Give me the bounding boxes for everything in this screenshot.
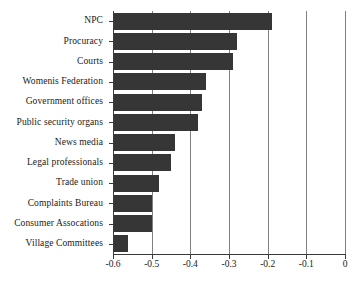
y-axis-label: Procuracy [0, 31, 108, 51]
bar-row [113, 153, 345, 173]
x-tick-label: 0 [343, 260, 348, 270]
x-tick-label: -0.3 [221, 260, 236, 270]
y-axis-label: Complaints Bureau [0, 193, 108, 213]
bar-row [113, 193, 345, 213]
y-axis-label: News media [0, 133, 108, 153]
bar [113, 94, 202, 111]
y-axis-label: Womenis Federation [0, 72, 108, 92]
bar [113, 134, 175, 151]
x-tick-label: -0.5 [144, 260, 159, 270]
bar-series [113, 11, 345, 254]
bar-row [113, 234, 345, 254]
bar [113, 73, 206, 90]
bar [113, 175, 159, 192]
x-tick-label: -0.1 [299, 260, 314, 270]
bar [113, 33, 237, 50]
y-axis-line [113, 11, 114, 254]
bar [113, 195, 152, 212]
bar-row [113, 214, 345, 234]
y-axis-label: Village Committees [0, 234, 108, 254]
y-axis-label: Consumer Assocations [0, 214, 108, 234]
y-axis-label: Legal professionals [0, 153, 108, 173]
x-tick-label: -0.6 [105, 260, 120, 270]
x-axis-ticks: -0.6-0.5-0.4-0.3-0.2-0.10 [113, 254, 345, 260]
bar-row [113, 112, 345, 132]
bar [113, 114, 198, 131]
bar-row [113, 11, 345, 31]
bar [113, 154, 171, 171]
bar-row [113, 173, 345, 193]
bar-row [113, 31, 345, 51]
bar [113, 53, 233, 70]
y-axis-category-labels: NPCProcuracyCourtsWomenis FederationGove… [0, 11, 108, 254]
bar [113, 235, 128, 252]
x-tick-label: -0.2 [260, 260, 275, 270]
bar [113, 13, 272, 30]
bar-row [113, 92, 345, 112]
y-axis-label: Courts [0, 52, 108, 72]
y-axis-label: Government offices [0, 92, 108, 112]
horizontal-bar-chart: NPCProcuracyCourtsWomenis FederationGove… [0, 0, 359, 283]
bar-row [113, 133, 345, 153]
y-axis-label: NPC [0, 11, 108, 31]
x-tick-label: -0.4 [183, 260, 198, 270]
y-axis-label: Trade union [0, 173, 108, 193]
bar-row [113, 72, 345, 92]
bar [113, 215, 152, 232]
gridline [345, 11, 346, 254]
y-axis-label: Public security organs [0, 112, 108, 132]
plot-area [113, 11, 345, 254]
bar-row [113, 52, 345, 72]
